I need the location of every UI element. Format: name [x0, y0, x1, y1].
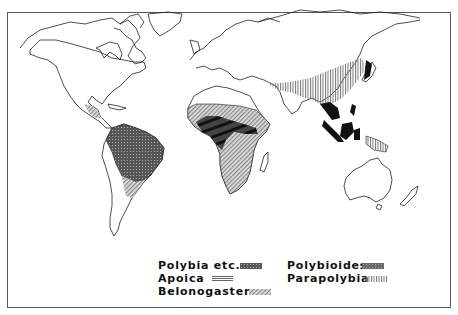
new-zealand-outline: [400, 186, 418, 206]
legend-swatch-polybioides: [362, 263, 384, 269]
region-parapolybia-asia: [268, 58, 366, 104]
region-parapolybia-new-guinea: [366, 136, 388, 152]
greenland-outline: [148, 12, 182, 36]
legend-label-belonogaster: Belonogaster: [158, 286, 250, 298]
legend-swatch-parapolybia: [366, 276, 388, 282]
legend-swatch-polybia: [240, 263, 262, 269]
legend-swatch-belonogaster: [249, 289, 271, 295]
region-belonogaster-mexico: [84, 104, 102, 118]
legend-label-apoica: Apoica: [158, 273, 204, 285]
legend-swatch-apoica: [212, 276, 233, 282]
madagascar-outline: [260, 152, 268, 172]
legend-label-parapolybia: Parapolybia: [287, 273, 369, 285]
legend-label-polybioides: Polybioides: [287, 260, 367, 272]
caribbean-outline: [108, 104, 126, 110]
tasmania-outline: [376, 204, 382, 210]
europe-outline: [190, 18, 280, 80]
north-america-outline: [20, 14, 146, 128]
region-belonogaster-africa: [188, 104, 270, 194]
australia-outline: [344, 158, 392, 202]
legend-label-polybia: Polybia etc.: [158, 260, 240, 272]
region-polybia-neotropics: [106, 124, 164, 184]
